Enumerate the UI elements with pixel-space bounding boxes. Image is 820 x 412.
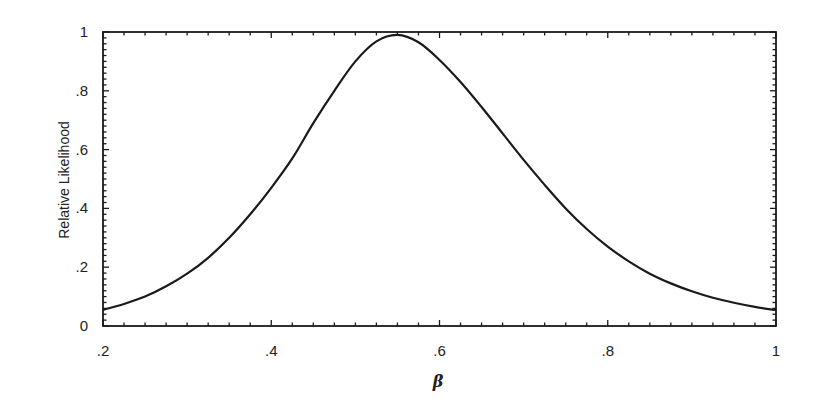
- y-tick-labels: 0.2.4.6.81: [75, 23, 88, 334]
- y-tick-label: .2: [75, 258, 88, 275]
- y-tick-label: .8: [75, 82, 88, 99]
- x-tick-label: 1: [772, 342, 780, 359]
- plot-border: [103, 32, 776, 326]
- y-tick-label: 0: [80, 317, 88, 334]
- likelihood-chart: .2.4.6.81 0.2.4.6.81 Relative Likelihood…: [0, 0, 820, 412]
- y-tick-label: .4: [75, 199, 88, 216]
- axis-ticks: [103, 32, 776, 326]
- plot-frame: [103, 32, 776, 326]
- y-tick-label: 1: [80, 23, 88, 40]
- likelihood-curve: [103, 35, 776, 310]
- y-axis-title: Relative Likelihood: [56, 121, 72, 239]
- x-tick-label: .4: [265, 342, 278, 359]
- y-tick-label: .6: [75, 141, 88, 158]
- x-tick-label: .2: [97, 342, 110, 359]
- x-tick-label: .8: [601, 342, 614, 359]
- x-tick-label: .6: [433, 342, 446, 359]
- x-tick-labels: .2.4.6.81: [97, 342, 780, 359]
- x-axis-title: β: [432, 372, 444, 391]
